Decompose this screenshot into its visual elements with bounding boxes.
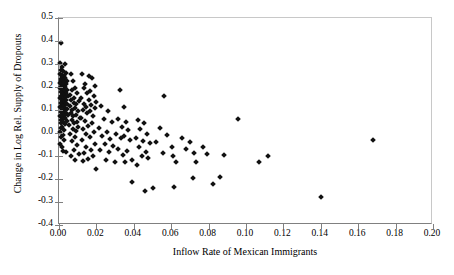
data-point bbox=[129, 157, 135, 163]
data-point bbox=[98, 103, 104, 109]
y-axis-title: Change in Log Rel. Supply of Dropouts bbox=[12, 4, 23, 224]
data-point bbox=[61, 137, 67, 143]
data-point bbox=[173, 159, 179, 165]
data-point bbox=[190, 175, 196, 181]
plot-area bbox=[58, 17, 432, 224]
y-axis-tick bbox=[55, 133, 63, 134]
y-axis-tick bbox=[55, 64, 63, 65]
data-point bbox=[161, 93, 167, 99]
x-axis-tick-label: 0.02 bbox=[87, 229, 104, 239]
data-point bbox=[125, 127, 131, 133]
data-point bbox=[183, 146, 189, 152]
y-axis-tick bbox=[55, 179, 63, 180]
data-point bbox=[140, 138, 146, 144]
data-point bbox=[169, 144, 175, 150]
data-point bbox=[90, 153, 96, 159]
data-point bbox=[204, 151, 210, 157]
data-point bbox=[93, 83, 99, 89]
data-point bbox=[80, 158, 86, 164]
data-point bbox=[105, 108, 111, 114]
data-point bbox=[109, 119, 115, 125]
x-axis-tick-label: 0.20 bbox=[424, 229, 441, 239]
data-point bbox=[266, 153, 272, 159]
data-point bbox=[81, 150, 87, 156]
y-axis-tick-label: -0.3 bbox=[38, 196, 53, 206]
y-axis-tick bbox=[55, 156, 63, 157]
data-point bbox=[141, 120, 147, 126]
y-axis-tick-label: -0.2 bbox=[38, 173, 53, 183]
data-point bbox=[221, 152, 227, 158]
x-axis-tick-label: 0.10 bbox=[237, 229, 254, 239]
data-point bbox=[136, 144, 142, 150]
data-points-layer bbox=[59, 18, 431, 223]
data-point bbox=[157, 126, 163, 132]
x-axis-tick-label: 0.00 bbox=[50, 229, 67, 239]
y-axis-tick-label: 0.4 bbox=[41, 35, 53, 45]
x-axis-tick-label: 0.08 bbox=[199, 229, 216, 239]
data-point bbox=[124, 148, 130, 154]
x-axis-tick-label: 0.18 bbox=[386, 229, 403, 239]
data-point bbox=[90, 113, 96, 119]
data-point bbox=[101, 116, 107, 122]
data-point bbox=[115, 116, 121, 122]
y-axis-tick-label: 0.0 bbox=[41, 127, 53, 137]
data-point bbox=[79, 138, 85, 144]
x-axis-tick-label: 0.06 bbox=[162, 229, 179, 239]
data-point bbox=[68, 71, 74, 77]
data-point bbox=[143, 149, 149, 155]
data-point bbox=[91, 129, 97, 135]
data-point bbox=[139, 154, 145, 160]
y-axis-tick bbox=[55, 18, 63, 19]
x-axis-tick-label: 0.04 bbox=[124, 229, 141, 239]
data-point bbox=[106, 149, 112, 155]
data-point bbox=[94, 166, 100, 172]
data-point bbox=[150, 185, 156, 191]
data-point bbox=[147, 140, 153, 146]
data-point bbox=[129, 179, 135, 185]
data-point bbox=[99, 133, 105, 139]
data-point bbox=[180, 135, 186, 141]
data-point bbox=[112, 159, 118, 165]
data-point bbox=[87, 134, 93, 140]
data-point bbox=[120, 152, 126, 158]
data-point bbox=[318, 194, 324, 200]
data-point bbox=[73, 128, 79, 134]
data-point bbox=[138, 126, 144, 132]
data-point bbox=[121, 104, 127, 110]
data-point bbox=[235, 116, 241, 122]
data-point bbox=[102, 141, 108, 147]
data-point bbox=[146, 155, 152, 161]
data-point bbox=[217, 174, 223, 180]
data-point bbox=[80, 71, 86, 77]
data-point bbox=[370, 138, 376, 144]
data-point bbox=[113, 131, 119, 137]
data-point bbox=[142, 188, 148, 194]
data-point bbox=[144, 132, 150, 138]
x-axis-tick-label: 0.12 bbox=[274, 229, 291, 239]
y-axis-tick-label: 0.5 bbox=[41, 12, 53, 22]
data-point bbox=[191, 150, 197, 156]
y-axis-tick-label: 0.1 bbox=[41, 104, 53, 114]
data-point bbox=[153, 139, 159, 145]
data-point bbox=[160, 150, 166, 156]
data-point bbox=[116, 146, 122, 152]
y-axis-tick bbox=[55, 87, 63, 88]
scatter-chart-figure: 0.50.40.30.20.10.0-0.1-0.2-0.3-0.4 0.000… bbox=[0, 0, 454, 275]
data-point bbox=[171, 184, 177, 190]
data-point bbox=[117, 87, 123, 93]
data-point bbox=[103, 157, 109, 163]
data-point bbox=[256, 159, 262, 165]
data-point bbox=[92, 141, 98, 147]
y-axis-tick-label: 0.2 bbox=[41, 81, 53, 91]
data-point bbox=[127, 137, 133, 143]
data-point bbox=[108, 137, 114, 143]
data-point bbox=[170, 153, 176, 159]
data-point bbox=[94, 99, 100, 105]
y-axis-tick bbox=[55, 41, 63, 42]
data-point bbox=[133, 135, 139, 141]
data-point bbox=[74, 142, 80, 148]
data-point bbox=[70, 78, 76, 84]
y-axis-tick-label: 0.3 bbox=[41, 58, 53, 68]
x-axis-tick-label: 0.14 bbox=[311, 229, 328, 239]
x-axis-tick-labels: 0.000.020.040.060.080.100.120.140.160.18… bbox=[58, 229, 432, 243]
